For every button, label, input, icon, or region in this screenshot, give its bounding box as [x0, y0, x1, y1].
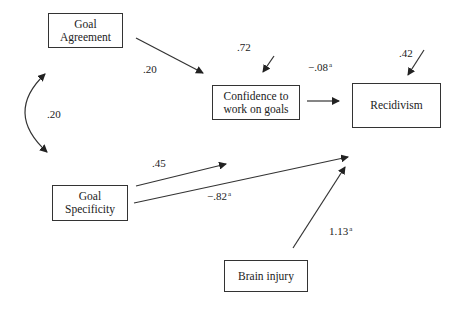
arrow-goal-specificity-to-confidence: [136, 164, 226, 186]
error-arrow-confidence: [263, 56, 274, 72]
coef-correlation: .20: [47, 108, 61, 120]
node-goal-agreement: Goal Agreement: [48, 13, 123, 48]
error-confidence: .72: [237, 41, 251, 53]
node-label: Goal: [79, 190, 101, 203]
node-label: Recidivism: [370, 99, 422, 112]
coef-goal-agreement-confidence: .20: [143, 63, 157, 75]
arrow-goal-specificity-to-recidivism: [134, 157, 348, 203]
node-recidivism: Recidivism: [352, 83, 441, 128]
node-goal-specificity: Goal Specificity: [52, 185, 128, 221]
node-label: Brain injury: [238, 270, 294, 283]
node-brain-injury: Brain injury: [224, 260, 308, 292]
node-label: Confidence to: [224, 90, 289, 103]
node-label: Specificity: [65, 203, 115, 216]
node-confidence: Confidence to work on goals: [212, 85, 300, 120]
coef-goal-specificity-confidence: .45: [152, 157, 166, 169]
node-label: Goal: [74, 18, 96, 31]
error-recidivism: .42: [399, 47, 413, 59]
coef-goal-specificity-recidivism: −.82a: [207, 190, 231, 202]
correlation-curve: [25, 74, 47, 152]
node-label: work on goals: [223, 103, 288, 116]
coef-brain-injury-recidivism: 1.13a: [329, 225, 352, 237]
node-label: Agreement: [60, 31, 111, 44]
coef-confidence-recidivism: −.08a: [308, 61, 332, 73]
